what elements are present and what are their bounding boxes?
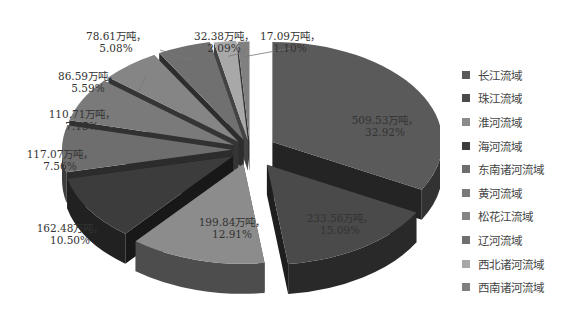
legend-swatch xyxy=(462,236,470,244)
data-label-percent: 12.91% xyxy=(212,228,252,240)
data-label-percent: 1.10% xyxy=(273,42,306,54)
data-label-value: 110.71万吨， xyxy=(49,108,116,120)
legend-label: 西南诸河流域 xyxy=(478,279,544,295)
data-label-percent: 7.15% xyxy=(65,120,98,132)
legend-swatch xyxy=(462,142,470,150)
legend-label: 长江流域 xyxy=(478,67,522,83)
legend-swatch xyxy=(462,71,470,79)
legend-item: 淮河流域 xyxy=(462,110,544,134)
legend-label: 淮河流域 xyxy=(478,114,522,130)
data-label-value: 117.07万吨， xyxy=(27,148,94,160)
legend-swatch xyxy=(462,212,470,220)
legend-item: 西北诸河流域 xyxy=(462,252,544,276)
legend-label: 海河流域 xyxy=(478,138,522,154)
legend-item: 辽河流域 xyxy=(462,228,544,252)
legend-label: 珠江流域 xyxy=(478,90,522,106)
legend-label: 东南诸河流域 xyxy=(478,161,544,177)
data-label-value: 233.56万吨， xyxy=(307,212,374,224)
data-label-percent: 7.56% xyxy=(43,160,76,172)
data-label-percent: 15.09% xyxy=(320,224,360,236)
legend-swatch xyxy=(462,165,470,173)
legend-swatch xyxy=(462,283,470,291)
data-label-value: 199.84万吨， xyxy=(199,216,266,228)
data-label-percent: 5.08% xyxy=(99,42,132,54)
pie-chart: 509.53万吨，32.92%233.56万吨，15.09%199.84万吨，1… xyxy=(0,0,440,310)
legend-item: 珠江流域 xyxy=(462,87,544,111)
data-label-value: 32.38万吨， xyxy=(194,30,254,42)
legend-item: 黄河流域 xyxy=(462,181,544,205)
data-label-value: 162.48万吨， xyxy=(37,222,104,234)
legend-label: 黄河流域 xyxy=(478,185,522,201)
legend-item: 东南诸河流域 xyxy=(462,157,544,181)
legend-swatch xyxy=(462,189,470,197)
data-label-value: 78.61万吨， xyxy=(86,30,146,42)
legend-item: 西南诸河流域 xyxy=(462,275,544,299)
legend-swatch xyxy=(462,94,470,102)
legend-label: 松花江流域 xyxy=(478,208,533,224)
legend-swatch xyxy=(462,118,470,126)
legend-label: 西北诸河流域 xyxy=(478,256,544,272)
data-label-percent: 2.09% xyxy=(207,42,240,54)
data-label-value: 86.59万吨， xyxy=(58,70,118,82)
chart-legend: 长江流域 珠江流域 淮河流域 海河流域 东南诸河流域 黄河流域 松花江流域 辽河… xyxy=(462,63,544,299)
legend-item: 海河流域 xyxy=(462,134,544,158)
data-label-value: 509.53万吨， xyxy=(352,114,419,126)
data-label-value: 17.09万吨， xyxy=(260,30,320,42)
data-label-percent: 32.92% xyxy=(365,126,405,138)
data-label: 78.61万吨，5.08% xyxy=(86,30,146,54)
data-label-percent: 10.50% xyxy=(50,234,90,246)
legend-item: 松花江流域 xyxy=(462,205,544,229)
legend-swatch xyxy=(462,260,470,268)
legend-item: 长江流域 xyxy=(462,63,544,87)
data-label-percent: 5.59% xyxy=(71,82,104,94)
legend-label: 辽河流域 xyxy=(478,232,522,248)
